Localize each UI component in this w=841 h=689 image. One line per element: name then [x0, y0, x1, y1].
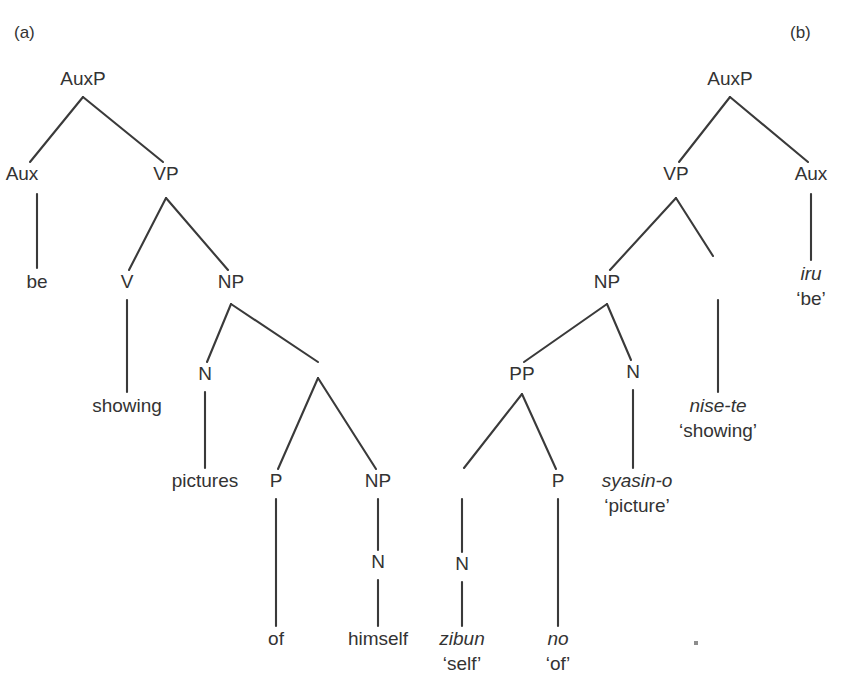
edge-b-np-n	[607, 304, 631, 360]
edge-auxp-vp	[83, 97, 163, 162]
scan-speck-artifact	[694, 641, 698, 645]
gloss-b-iru: ‘be’	[796, 288, 826, 309]
leaf-a-himself: himself	[348, 628, 409, 649]
node-b-p-no: P	[552, 470, 565, 491]
node-b-pp: PP	[509, 363, 534, 384]
node-b-auxp: AuxP	[707, 68, 752, 89]
edge-pp-np2	[318, 378, 376, 469]
node-b-vp: VP	[663, 163, 688, 184]
node-a-vp: VP	[153, 163, 178, 184]
edge-b-np-pp	[524, 304, 607, 362]
node-b-n-head: N	[626, 361, 640, 382]
edge-b-pp-p	[522, 394, 556, 469]
syntax-tree-figure: (a) AuxP Aux VP be	[0, 0, 841, 689]
edge-np-pp	[231, 304, 318, 362]
node-a-auxp: AuxP	[60, 68, 105, 89]
gloss-b-nise-te: ‘showing’	[679, 420, 757, 441]
tree-canvas: (a) AuxP Aux VP be	[0, 0, 841, 689]
panel-a-label: (a)	[14, 23, 35, 42]
node-a-p: P	[270, 470, 283, 491]
edge-b-auxp-vp	[679, 97, 730, 162]
node-a-v: V	[121, 271, 134, 292]
edge-b-pp-n	[464, 394, 522, 468]
panel-a: (a) AuxP Aux VP be	[6, 23, 409, 649]
edge-b-auxp-aux	[730, 97, 808, 162]
edge-vp-v	[129, 198, 166, 270]
panel-a-branches	[30, 97, 378, 626]
panel-b-label: (b)	[790, 23, 811, 42]
gloss-b-zibun: ‘self’	[443, 653, 481, 674]
node-b-np: NP	[594, 271, 620, 292]
node-b-aux: Aux	[795, 163, 828, 184]
leaf-a-be: be	[26, 271, 47, 292]
edge-auxp-aux	[30, 97, 83, 162]
leaf-a-showing: showing	[92, 395, 162, 416]
gloss-b-no: ‘of’	[546, 653, 571, 674]
leaf-a-of: of	[268, 628, 285, 649]
node-a-aux: Aux	[6, 163, 39, 184]
edge-b-vp-np	[610, 198, 676, 270]
leaf-b-iru: iru	[800, 263, 822, 284]
gloss-b-syasin-o: ‘picture’	[604, 495, 669, 516]
leaf-b-zibun: zibun	[438, 628, 484, 649]
leaf-b-no: no	[547, 628, 568, 649]
node-a-np: NP	[218, 271, 244, 292]
leaf-b-syasin-o: syasin-o	[602, 470, 673, 491]
node-a-n1: N	[198, 363, 212, 384]
edge-vp-np	[166, 198, 228, 270]
edge-np-n	[207, 304, 231, 362]
leaf-b-nise-te: nise-te	[689, 395, 746, 416]
node-b-n-zibun: N	[455, 553, 469, 574]
node-a-n2: N	[371, 551, 385, 572]
leaf-a-pictures: pictures	[172, 470, 239, 491]
edge-b-vp-nisete	[676, 198, 713, 256]
panel-b: (b) AuxP VP Aux NP	[438, 23, 828, 674]
node-a-np2: NP	[365, 470, 391, 491]
edge-pp-p	[278, 378, 318, 469]
